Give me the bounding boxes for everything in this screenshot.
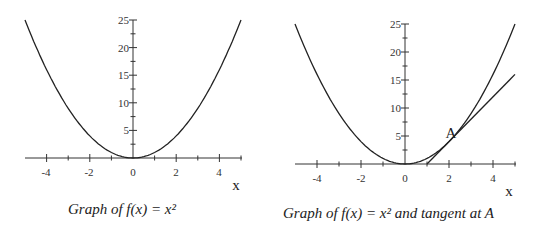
y-tick-label: 5 — [124, 124, 130, 136]
tangent-line — [427, 74, 515, 164]
y-tick-label: 10 — [390, 102, 402, 114]
left-plot — [25, 20, 242, 162]
x-tick-label: 4 — [490, 172, 496, 184]
y-tick-label: 15 — [118, 69, 130, 81]
x-tick-label: -4 — [41, 166, 51, 178]
left-caption: Graph of f(x) = x² — [68, 201, 176, 218]
x-axis-label: x — [232, 177, 240, 193]
left-tick-labels: -4 -2 0 2 4 5 10 15 20 25 x — [41, 14, 240, 193]
x-tick-label: -2 — [84, 166, 93, 178]
y-tick-label: 25 — [390, 18, 402, 30]
right-caption: Graph of f(x) = x² and tangent at A — [283, 205, 494, 222]
x-tick-label: 2 — [446, 172, 452, 184]
right-tick-labels: -4 -2 0 2 4 5 10 15 20 25 x A — [312, 18, 513, 199]
x-tick-label: 0 — [130, 166, 136, 178]
right-plot — [295, 24, 516, 168]
axis-ticks — [317, 24, 515, 168]
y-tick-label: 20 — [390, 46, 402, 58]
x-tick-label: 4 — [216, 166, 222, 178]
y-tick-label: 25 — [118, 14, 130, 26]
x-axis-label: x — [505, 183, 513, 199]
y-tick-label: 5 — [396, 130, 402, 142]
y-tick-label: 20 — [118, 42, 130, 54]
x-tick-label: 0 — [402, 172, 408, 184]
point-a-label: A — [446, 125, 457, 141]
x-tick-label: 2 — [173, 166, 179, 178]
y-tick-label: 10 — [118, 97, 130, 109]
x-tick-label: -2 — [356, 172, 365, 184]
x-tick-label: -4 — [312, 172, 322, 184]
axis-ticks — [47, 20, 241, 162]
y-tick-label: 15 — [390, 74, 402, 86]
